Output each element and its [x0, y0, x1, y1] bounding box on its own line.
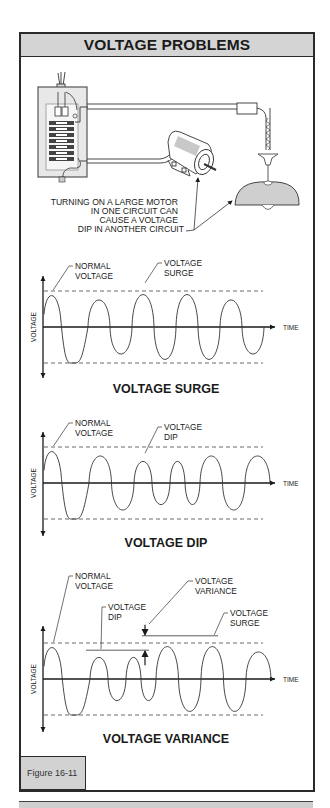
annotation-label: VOLTAGESURGE — [230, 608, 268, 628]
annotation-line: NORMAL — [75, 418, 111, 428]
annotation-leader-line — [53, 266, 73, 290]
annotation-line: NORMAL — [75, 261, 111, 271]
annotation-label: VOLTAGEVARIANCE — [195, 576, 237, 596]
annotation-label: NORMALVOLTAGE — [75, 418, 113, 438]
voltage-axis-label: VOLTAGE — [30, 467, 37, 497]
annotation-label: NORMALVOLTAGE — [75, 571, 113, 591]
annotation-label: VOLTAGEDIP — [108, 602, 146, 622]
wiring-illustration: TURNING ON A LARGE MOTOR IN ONE CIRCUIT … — [38, 72, 299, 234]
chart-title: VOLTAGE VARIANCE — [103, 732, 229, 746]
annotation-line: VOLTAGE — [230, 608, 268, 618]
annotation-label: NORMALVOLTAGE — [75, 261, 113, 281]
caption-leader-lines — [186, 178, 232, 231]
annotation-line: SURGE — [230, 618, 260, 628]
annotation-line: VOLTAGE — [75, 581, 113, 591]
axis-arrow-right-icon — [270, 325, 275, 330]
axis-arrow-up-icon — [41, 432, 46, 437]
annotation-line: SURGE — [164, 268, 194, 278]
annotation-line: VOLTAGE — [164, 258, 202, 268]
annotation-line: VOLTAGE — [195, 576, 233, 586]
voltage-axis-label: VOLTAGE — [30, 311, 37, 341]
annotation-line: DIP — [108, 612, 122, 622]
annotation-line: VOLTAGE — [75, 428, 113, 438]
annotation-leader-line — [53, 423, 73, 446]
illustration-caption: TURNING ON A LARGE MOTOR IN ONE CIRCUIT … — [51, 197, 185, 234]
annotation-label: VOLTAGEDIP — [164, 422, 202, 442]
annotation-leader-line — [149, 581, 193, 624]
voltage-dip-chart: TIMEVOLTAGENORMALVOLTAGEVOLTAGEDIPVOLTAG… — [30, 418, 299, 550]
chart-title: VOLTAGE SURGE — [113, 382, 220, 396]
axis-arrow-up-icon — [41, 276, 46, 281]
annotation-label: VOLTAGESURGE — [164, 258, 202, 278]
electric-motor-icon — [168, 131, 217, 177]
axis-arrow-down-icon — [41, 531, 46, 536]
lamp-chain-icon — [266, 118, 270, 150]
voltage-axis-label: VOLTAGE — [30, 663, 37, 693]
axis-arrow-up-icon — [41, 626, 46, 631]
annotation-leader-line — [145, 263, 162, 283]
annotation-leader-line — [145, 427, 162, 453]
service-panel-icon — [38, 87, 87, 177]
annotation-line: VOLTAGE — [108, 602, 146, 612]
annotation-leader-line — [54, 576, 73, 642]
axis-arrow-right-icon — [270, 481, 275, 486]
annotation-leader-line — [214, 613, 228, 635]
voltage-variance-chart: TIMEVOLTAGENORMALVOLTAGEVOLTAGEDIPVOLTAG… — [30, 571, 299, 746]
lamp-canopy-icon — [258, 154, 278, 165]
annotation-line: VOLTAGE — [164, 422, 202, 432]
voltage-surge-chart: TIMEVOLTAGENORMALVOLTAGEVOLTAGESURGEVOLT… — [30, 258, 299, 396]
annotation-line: DIP — [164, 432, 178, 442]
axis-arrow-down-icon — [41, 373, 46, 378]
pendant-lamp-icon — [235, 181, 299, 210]
axis-arrow-down-icon — [41, 727, 46, 732]
annotation-line: VARIANCE — [195, 586, 237, 596]
voltage-waveform — [44, 452, 270, 520]
chart-title: VOLTAGE DIP — [125, 536, 208, 550]
voltage-waveform — [44, 647, 271, 715]
time-axis-label: TIME — [283, 676, 299, 683]
motor-circuit-conduit — [80, 152, 174, 163]
time-axis-label: TIME — [283, 324, 299, 331]
annotation-line: VOLTAGE — [75, 271, 113, 281]
service-wires-icon — [57, 72, 65, 88]
annotation-line: NORMAL — [75, 571, 111, 581]
caption-line: DIP IN ANOTHER CIRCUIT — [78, 224, 185, 234]
time-axis-label: TIME — [283, 480, 299, 487]
voltage-waveform — [44, 295, 264, 363]
